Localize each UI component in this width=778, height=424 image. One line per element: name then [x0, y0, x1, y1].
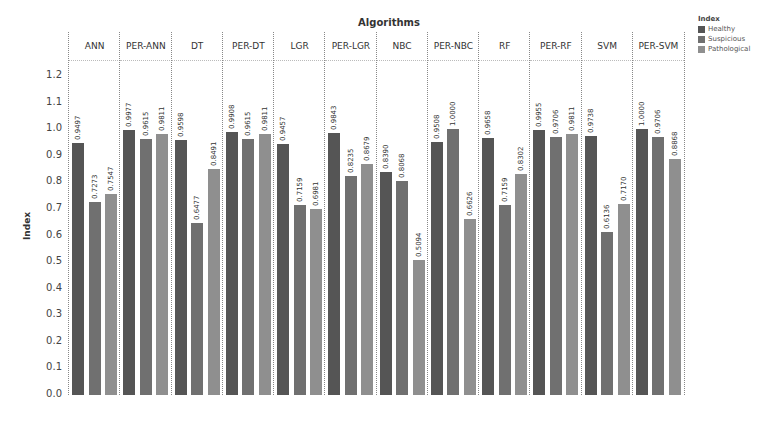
panel-per-rf: PER-RF0.99550.97060.9811: [529, 32, 581, 395]
bar-pathological[interactable]: [413, 260, 425, 395]
value-label: 0.9811: [158, 107, 166, 132]
bar-suspicious[interactable]: [140, 139, 152, 395]
bar-pathological[interactable]: [105, 194, 117, 395]
value-label: 0.8491: [210, 142, 218, 167]
bar-suspicious[interactable]: [652, 137, 664, 395]
bar-pathological[interactable]: [361, 164, 373, 395]
panel-rf: RF0.96580.71590.8302: [478, 32, 530, 395]
value-label: 0.7273: [91, 174, 99, 199]
y-tick-label: 0.1: [22, 361, 62, 372]
value-label: 0.6626: [466, 191, 474, 216]
value-label: 0.7170: [620, 177, 628, 202]
value-label: 0.9955: [535, 103, 543, 128]
bar-suspicious[interactable]: [447, 129, 459, 395]
bar-suspicious[interactable]: [499, 205, 511, 395]
bar-suspicious[interactable]: [601, 232, 613, 395]
legend-swatch-icon: [698, 46, 705, 53]
bar-healthy[interactable]: [328, 133, 340, 395]
bar-pathological[interactable]: [310, 209, 322, 395]
panel-header: PER-NBC: [428, 32, 479, 61]
y-tick-label: 0.6: [22, 229, 62, 240]
panel-per-dt: PER-DT0.99080.96150.9811: [222, 32, 274, 395]
value-label: 0.6981: [312, 182, 320, 207]
bar-suspicious[interactable]: [294, 205, 306, 395]
bar-healthy[interactable]: [123, 130, 135, 395]
panel-per-nbc: PER-NBC0.95081.00000.6626: [427, 32, 479, 395]
panel-header: RF: [479, 32, 530, 61]
y-tick-label: 1.2: [22, 69, 62, 80]
bar-healthy[interactable]: [533, 130, 545, 395]
value-label: 0.9497: [74, 115, 82, 140]
bar-pathological[interactable]: [156, 134, 168, 395]
legend-label: Pathological: [708, 44, 750, 54]
legend-item-healthy[interactable]: Healthy: [698, 24, 750, 34]
bar-pathological[interactable]: [669, 159, 681, 395]
panel-header: NBC: [377, 32, 428, 61]
y-tick-label: 0.8: [22, 175, 62, 186]
grouped-bar-chart: Algorithms Index 0.00.10.20.30.40.50.60.…: [0, 0, 778, 424]
value-label: 0.8390: [382, 144, 390, 169]
value-label: 0.5094: [415, 232, 423, 257]
bar-healthy[interactable]: [431, 142, 443, 395]
bar-healthy[interactable]: [380, 172, 392, 395]
value-label: 0.7547: [107, 167, 115, 192]
value-label: 0.9598: [177, 112, 185, 137]
value-label: 0.9811: [568, 107, 576, 132]
chart-title: Algorithms: [0, 17, 778, 28]
panel-header: PER-DT: [223, 32, 274, 61]
bar-healthy[interactable]: [72, 143, 84, 395]
panel-header: ANN: [69, 32, 120, 61]
value-label: 0.9658: [484, 111, 492, 136]
value-label: 1.0000: [638, 102, 646, 127]
value-label: 0.9843: [330, 106, 338, 131]
value-label: 0.9615: [244, 112, 252, 137]
bar-healthy[interactable]: [585, 136, 597, 395]
bar-healthy[interactable]: [226, 132, 238, 395]
value-label: 0.6477: [193, 195, 201, 220]
y-tick-label: 0.2: [22, 335, 62, 346]
value-label: 0.9457: [279, 116, 287, 141]
value-label: 0.7159: [296, 177, 304, 202]
bar-healthy[interactable]: [277, 144, 289, 395]
value-label: 0.8302: [517, 147, 525, 172]
value-label: 0.9706: [552, 109, 560, 134]
bar-suspicious[interactable]: [396, 181, 408, 395]
bar-pathological[interactable]: [618, 204, 630, 395]
legend-item-suspicious[interactable]: Suspicious: [698, 34, 750, 44]
legend-title: Index: [698, 14, 750, 24]
y-tick-label: 0.0: [22, 388, 62, 399]
bar-pathological[interactable]: [259, 134, 271, 395]
panel-per-lgr: PER-LGR0.98430.82350.8679: [324, 32, 376, 395]
value-label: 0.6136: [603, 204, 611, 229]
bar-suspicious[interactable]: [191, 223, 203, 395]
value-label: 0.9508: [433, 115, 441, 140]
y-tick-label: 1.1: [22, 96, 62, 107]
panel-per-svm: PER-SVM1.00000.97060.8868: [632, 32, 685, 395]
value-label: 0.9615: [142, 112, 150, 137]
panel-header: PER-SVM: [633, 32, 684, 61]
panel-per-ann: PER-ANN0.99770.96150.9811: [119, 32, 171, 395]
panel-header: PER-RF: [530, 32, 581, 61]
panel-svm: SVM0.97380.61360.7170: [581, 32, 633, 395]
bar-suspicious[interactable]: [345, 176, 357, 395]
value-label: 0.9738: [587, 109, 595, 134]
bar-pathological[interactable]: [208, 169, 220, 395]
bar-suspicious[interactable]: [550, 137, 562, 395]
value-label: 0.8235: [347, 149, 355, 174]
bar-pathological[interactable]: [566, 134, 578, 395]
value-label: 0.9811: [261, 107, 269, 132]
bar-pathological[interactable]: [515, 174, 527, 395]
panel-header: PER-ANN: [120, 32, 171, 61]
bar-healthy[interactable]: [482, 138, 494, 395]
bar-healthy[interactable]: [636, 129, 648, 395]
bar-suspicious[interactable]: [242, 139, 254, 395]
y-tick-label: 0.7: [22, 202, 62, 213]
value-label: 0.9977: [125, 102, 133, 127]
y-tick-label: 1.0: [22, 122, 62, 133]
value-label: 0.8868: [671, 132, 679, 157]
bar-suspicious[interactable]: [89, 202, 101, 395]
value-label: 0.9908: [228, 104, 236, 129]
legend-item-pathological[interactable]: Pathological: [698, 44, 750, 54]
bar-pathological[interactable]: [464, 219, 476, 395]
bar-healthy[interactable]: [175, 140, 187, 395]
